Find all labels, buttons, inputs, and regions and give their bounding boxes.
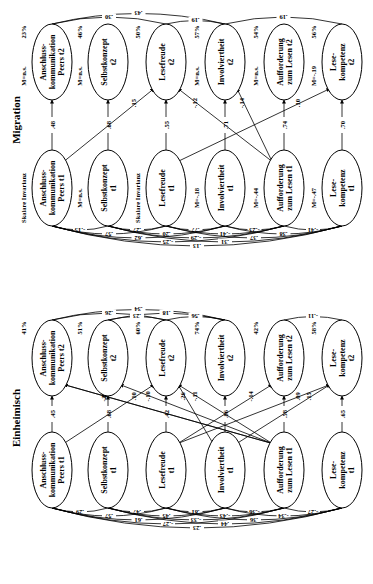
- cross-lagged-path: [178, 89, 330, 162]
- node-label: Aufforderung: [276, 38, 285, 86]
- node-label: kompetenz: [338, 339, 347, 377]
- node-label: kommunikation: [48, 442, 57, 497]
- stability-coef: .48: [49, 120, 56, 129]
- correlation-coef: .34: [134, 306, 143, 313]
- node-label: t1: [109, 185, 118, 192]
- mean-label: M=-.19: [310, 65, 317, 86]
- node-label: Involviertheit: [217, 164, 226, 211]
- r2-label: 23%: [20, 26, 27, 39]
- invariance-label: M=-.47: [310, 187, 317, 208]
- cross-coef: -.14: [247, 390, 254, 401]
- node-label: kommunikation: [48, 34, 57, 89]
- r2-label: 51%: [76, 322, 83, 335]
- mean-label: M=n.s.: [193, 66, 200, 86]
- cross-coef: .15: [305, 392, 312, 401]
- node-label: Selbstkonzept: [100, 164, 109, 212]
- cross-coef: .26: [179, 392, 186, 401]
- r2-label: 57%: [193, 26, 200, 39]
- node-label: Lese-: [329, 53, 338, 72]
- invariance-label: M=-.18: [193, 187, 200, 208]
- node-label: kompetenz: [338, 43, 347, 81]
- node-label: t1: [347, 185, 356, 192]
- mean-label: M=n.s.: [76, 66, 83, 86]
- correlation-coef: .23: [132, 313, 141, 320]
- node-label: t1: [226, 185, 235, 192]
- node-label: Lesefreude: [158, 339, 167, 377]
- node-label: kompetenz: [338, 169, 347, 207]
- invariance-label: Skalare Invarianz: [134, 173, 141, 223]
- cross-coef: .15: [130, 98, 137, 107]
- r2-label: 42%: [252, 322, 259, 335]
- node-label: Anschluss-: [39, 339, 48, 376]
- correlation-coef: .26: [104, 310, 113, 317]
- node-label: t1: [226, 467, 235, 474]
- correlation-coef: .19: [191, 17, 200, 24]
- stability-coef: .65: [339, 409, 346, 418]
- node-label: Aufforderung: [276, 164, 285, 212]
- node-label: Anschluss-: [39, 451, 48, 488]
- node-label: Lese-: [329, 461, 338, 480]
- node-label: zum Lesen t1: [285, 447, 294, 492]
- mean-label: M=n.s.: [252, 66, 259, 86]
- node-label: Aufforderung: [276, 334, 285, 382]
- node-label: zum Lesen t2: [285, 335, 294, 380]
- correlation-coef: -.27: [162, 521, 173, 528]
- node-label: Lesefreude: [158, 169, 167, 207]
- correlation-coef: .23: [192, 525, 201, 532]
- node-label: t2: [167, 59, 176, 66]
- mean-label: M=n.s.: [20, 66, 27, 86]
- node-label: kommunikation: [48, 160, 57, 215]
- stability-coef: .55: [163, 120, 170, 129]
- correlation-coef: .19: [279, 14, 288, 21]
- correlation-coef: .56: [191, 313, 200, 320]
- invariance-label: M=n.s.: [76, 188, 83, 208]
- r2-label: 50%: [134, 26, 141, 39]
- correlation-coef: -.25: [162, 239, 173, 246]
- invariance-label: Skalare Invarianz: [20, 173, 27, 223]
- node-label: Lesefreude: [158, 43, 167, 81]
- node-label: Peers t2: [57, 48, 66, 75]
- node-label: t2: [226, 355, 235, 362]
- correlation-coef: .30: [105, 14, 113, 21]
- cross-coef: -.10: [144, 391, 151, 401]
- r2-label: 60%: [134, 322, 141, 335]
- node-label: kommunikation: [48, 330, 57, 385]
- node-label: Peers t1: [57, 174, 66, 201]
- panel-title: Einheimisch: [10, 389, 22, 447]
- node-label: Anschluss-: [39, 43, 48, 80]
- node-label: kompetenz: [338, 451, 347, 489]
- node-label: Lese-: [329, 349, 338, 368]
- correlation-coef: .13: [192, 243, 201, 250]
- node-label: Involviertheit: [217, 38, 226, 85]
- node-label: Peers t2: [57, 344, 66, 371]
- stability-coef: .74: [281, 120, 288, 129]
- correlation-coef: .31: [221, 239, 229, 246]
- node-label: Lese-: [329, 179, 338, 198]
- node-label: t1: [347, 467, 356, 474]
- correlation-coef: -.11: [308, 313, 318, 320]
- node-label: Selbstkonzept: [100, 38, 109, 86]
- node-label: Selbstkonzept: [100, 334, 109, 382]
- node-label: zum Lesen t1: [285, 165, 294, 210]
- panel-title: Migration: [10, 96, 22, 144]
- cross-coef: -.14: [238, 97, 245, 108]
- node-label: Involviertheit: [217, 446, 226, 493]
- cross-coef: .09: [294, 392, 301, 401]
- r2-label: 54%: [252, 26, 259, 39]
- node-label: Anschluss-: [39, 169, 48, 206]
- node-label: Involviertheit: [217, 334, 226, 381]
- panel-einheimisch: Einheimisch.45.68.42.86.58.65.29.47.81-.…: [10, 306, 362, 532]
- correlation-coef: .18: [162, 310, 171, 317]
- invariance-label: M=-.44: [252, 187, 259, 208]
- cross-coef: -.12: [191, 98, 198, 108]
- node-label: t2: [226, 59, 235, 66]
- node-label: t2: [167, 355, 176, 362]
- node-label: t1: [167, 185, 176, 192]
- r2-label: 74%: [193, 322, 200, 335]
- stability-coef: .45: [49, 409, 56, 418]
- cross-coef: -.11: [191, 391, 198, 401]
- node-label: t2: [347, 59, 356, 66]
- node-label: t2: [347, 355, 356, 362]
- cross-coef: .10: [130, 392, 137, 400]
- node-label: t2: [109, 355, 118, 362]
